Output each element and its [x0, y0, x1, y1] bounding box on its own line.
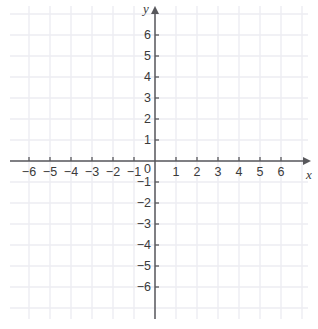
- y-tick-label: 3: [123, 92, 151, 105]
- origin-label: 0: [144, 163, 151, 176]
- y-tick-label: 1: [123, 134, 151, 147]
- y-tick-label: −5: [123, 260, 151, 273]
- y-tick-label: 6: [123, 29, 151, 42]
- y-tick-label: 2: [123, 113, 151, 126]
- y-tick-label: −6: [123, 281, 151, 294]
- y-tick-label: −2: [123, 197, 151, 210]
- y-tick-label: −3: [123, 218, 151, 231]
- y-tick-label: −4: [123, 239, 151, 252]
- vertical-gridlines: [29, 6, 302, 319]
- axis-arrowheads: [151, 6, 311, 165]
- x-tick-label: 6: [269, 166, 293, 179]
- y-tick-label: −1: [123, 176, 151, 189]
- y-tick-label: 4: [123, 71, 151, 84]
- x-axis-label: x: [306, 168, 312, 181]
- y-axis-label: y: [143, 2, 149, 15]
- coordinate-plane: −6−5−4−3−2−1123456 654321−1−2−3−4−5−6 0 …: [0, 0, 318, 329]
- y-tick-label: 5: [123, 50, 151, 63]
